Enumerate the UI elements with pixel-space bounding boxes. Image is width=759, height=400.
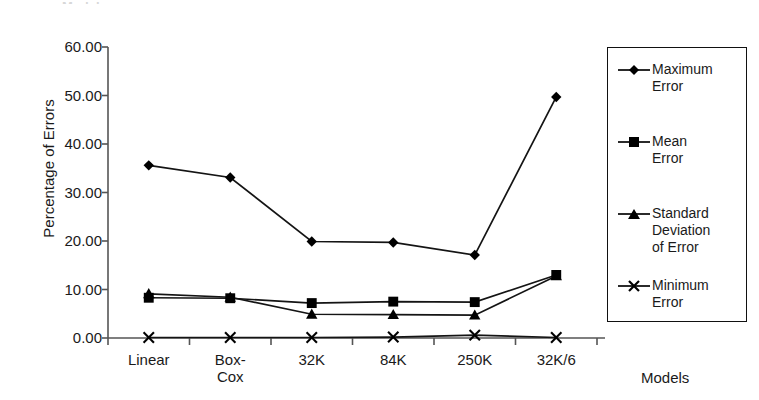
legend-item-standard-deviation-of-error[interactable]: Standard Deviation of Error — [617, 205, 745, 256]
marker-square — [470, 297, 480, 307]
x-tick-label: Linear — [104, 351, 194, 368]
x-tick-label: 32K/6 — [511, 351, 601, 368]
chart-figure: Models Percentage of Errors 60.0050.0040… — [0, 0, 759, 400]
x-axis-title: Models — [641, 369, 689, 386]
x-tick-label: Box- Cox — [185, 351, 275, 385]
series-line — [149, 335, 557, 337]
legend-marker-square-icon — [617, 134, 651, 150]
marker-diamond — [551, 92, 561, 102]
series-line — [149, 275, 557, 303]
series-line — [149, 97, 557, 255]
legend-label: Standard Deviation of Error — [652, 205, 710, 256]
legend-marker-cross-icon — [617, 278, 651, 294]
legend-marker-diamond-icon — [617, 62, 651, 78]
legend-item-mean-error[interactable]: Mean Error — [617, 133, 745, 167]
marker-square — [307, 298, 317, 308]
x-tick-label: 84K — [348, 351, 438, 368]
legend-label: Minimum Error — [652, 277, 709, 311]
marker-diamond — [470, 250, 480, 260]
legend-marker-triangle-icon — [617, 206, 651, 222]
legend-label: Maximum Error — [652, 61, 713, 95]
legend-label: Mean Error — [652, 133, 687, 167]
marker-diamond — [144, 160, 154, 170]
legend-item-minimum-error[interactable]: Minimum Error — [617, 277, 745, 311]
marker-diamond — [388, 237, 398, 247]
chart-legend: Maximum ErrorMean ErrorStandard Deviatio… — [607, 47, 747, 322]
legend-item-maximum-error[interactable]: Maximum Error — [617, 61, 745, 95]
marker-square — [388, 297, 398, 307]
x-tick-label: 250K — [430, 351, 520, 368]
x-tick-label: 32K — [267, 351, 357, 368]
